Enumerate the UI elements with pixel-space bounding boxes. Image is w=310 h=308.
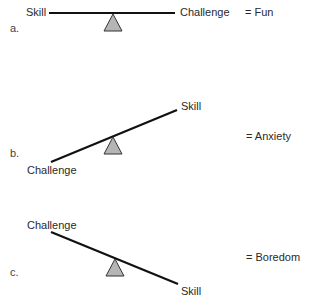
panel-b-label: b. [10, 147, 19, 159]
panel-c-seesaw [51, 232, 178, 284]
panel-c-result: = Boredom [246, 251, 300, 263]
panel-a-fulcrum-icon [104, 14, 122, 31]
panel-c-left-label: Challenge [27, 219, 77, 231]
panel-c-right-label: Skill [181, 285, 201, 297]
panel-b-right-label: Skill [181, 100, 201, 112]
panel-a-label: a. [10, 22, 19, 34]
panel-a-seesaw [49, 13, 175, 31]
panel-a-result: = Fun [245, 6, 273, 18]
panel-a-right-label: Challenge [180, 6, 230, 18]
panel-a-left-label: Skill [26, 6, 46, 18]
panel-b-seesaw [51, 110, 177, 162]
panel-c-label: c. [10, 266, 19, 278]
panel-b-left-label: Challenge [27, 164, 77, 176]
panel-b-result: = Anxiety [246, 130, 291, 142]
